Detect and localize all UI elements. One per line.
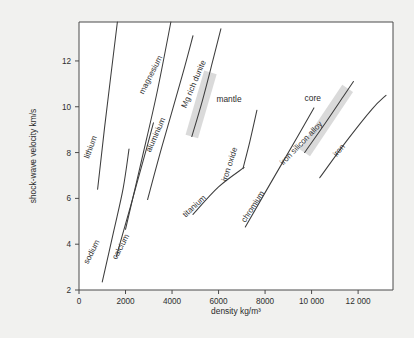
- y-tick-label: 6: [66, 194, 71, 203]
- y-tick-label: 8: [66, 149, 71, 158]
- x-tick-label: 2000: [116, 297, 135, 306]
- x-tick-label: 6000: [209, 297, 228, 306]
- y-tick-label: 10: [62, 103, 72, 112]
- y-tick-label: 4: [66, 240, 71, 249]
- figure-root: 24681012 0200040006000800010 00012 000 l…: [0, 0, 414, 338]
- y-axis-title: shock-wave velocity km/s: [28, 109, 38, 203]
- x-tick-label: 10 000: [299, 297, 324, 306]
- shock-wave-velocity-vs-density-chart: 24681012 0200040006000800010 00012 000 l…: [0, 0, 414, 338]
- x-axis-title: density kg/m³: [211, 306, 261, 316]
- figure-surface: 24681012 0200040006000800010 00012 000 l…: [0, 0, 414, 338]
- annotation-mantle: mantle: [216, 94, 241, 104]
- x-tick-label: 12 000: [346, 297, 371, 306]
- x-tick-label: 4000: [163, 297, 182, 306]
- y-axis-ticks: 24681012: [62, 57, 79, 295]
- y-tick-label: 2: [66, 286, 71, 295]
- x-tick-label: 8000: [256, 297, 275, 306]
- y-tick-label: 12: [62, 57, 72, 66]
- x-tick-label: 0: [77, 297, 82, 306]
- annotation-core: core: [305, 93, 322, 103]
- x-axis-ticks: 0200040006000800010 00012 000: [77, 290, 371, 306]
